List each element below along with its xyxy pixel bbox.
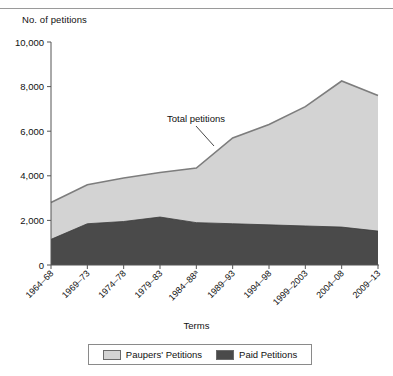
annotation-leader-line [196, 126, 214, 146]
legend-label-paupers: Paupers' Petitions [126, 349, 202, 360]
y-tick-label: 4,000 [20, 170, 44, 181]
x-tick-label: 2004–08 [314, 268, 346, 300]
x-tick-label: 1974–78 [96, 268, 128, 300]
annotation-total-petitions: Total petitions [167, 113, 225, 124]
y-tick-label: 2,000 [20, 215, 44, 226]
x-axis-title: Terms [0, 320, 393, 331]
legend-label-paid: Paid Petitions [239, 349, 297, 360]
legend-swatch-paupers [103, 350, 121, 360]
x-tick-label: 2009–13 [351, 268, 383, 300]
x-tick-label: 1979–83 [133, 268, 165, 300]
area-paupers-petitions [51, 81, 378, 239]
x-tick-label: 1994–98 [242, 268, 274, 300]
y-tick-label: 10,000 [15, 37, 44, 48]
y-tick-label: 8,000 [20, 81, 44, 92]
y-tick-label: 0 [39, 260, 44, 271]
legend-item-paupers: Paupers' Petitions [103, 349, 202, 360]
chart-legend: Paupers' Petitions Paid Petitions [88, 344, 312, 365]
x-tick-label: 1969–73 [60, 268, 92, 300]
x-tick-label: 1984–88ᵃ [167, 268, 202, 303]
legend-item-paid: Paid Petitions [216, 349, 297, 360]
x-tick-label: 1964–68 [24, 268, 56, 300]
y-tick-label: 6,000 [20, 126, 44, 137]
x-tick-label: 1999–2003 [271, 268, 310, 307]
legend-swatch-paid [216, 350, 234, 360]
x-tick-label: 1989–93 [205, 268, 237, 300]
